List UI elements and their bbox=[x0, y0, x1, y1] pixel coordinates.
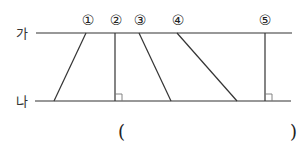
right-angle-mark-5 bbox=[265, 94, 272, 101]
line-label-na: 나 bbox=[16, 94, 28, 109]
answer-close-paren: ) bbox=[290, 121, 297, 142]
segment-4 bbox=[177, 33, 237, 101]
segment-label-2: ② bbox=[110, 12, 123, 28]
segment-3 bbox=[139, 33, 171, 101]
segment-label-5: ⑤ bbox=[259, 12, 272, 28]
line-label-ga: 가 bbox=[16, 26, 28, 41]
right-angle-mark-2 bbox=[115, 94, 122, 101]
segment-label-4: ④ bbox=[172, 12, 185, 28]
segment-label-1: ① bbox=[82, 12, 95, 28]
segment-1 bbox=[54, 33, 86, 101]
answer-open-paren: ( bbox=[118, 121, 125, 142]
parallel-lines-diagram: 가 나 ① ② ③ ④ ⑤ ( ) bbox=[0, 0, 307, 154]
segment-label-3: ③ bbox=[134, 12, 147, 28]
